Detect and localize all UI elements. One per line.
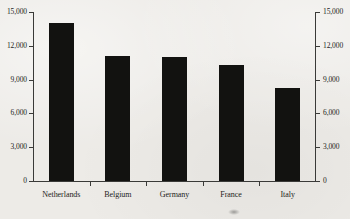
x-axis-tick bbox=[203, 182, 204, 186]
x-axis-label: France bbox=[220, 190, 241, 199]
y-axis-left-tick bbox=[29, 147, 33, 148]
y-axis-left-line bbox=[33, 12, 34, 182]
y-axis-left-tick bbox=[29, 113, 33, 114]
x-axis-line bbox=[33, 181, 316, 182]
scan-artifact bbox=[228, 209, 240, 215]
y-axis-left-tick-label: 12,000 bbox=[7, 42, 27, 50]
y-axis-left-tick-label: 3,000 bbox=[11, 143, 27, 151]
y-axis-left-tick-label: 0 bbox=[23, 177, 27, 185]
y-axis-right-tick-label: 9,000 bbox=[323, 76, 339, 84]
x-axis-label: Netherlands bbox=[42, 190, 80, 199]
y-axis-left-tick-label: 9,000 bbox=[11, 76, 27, 84]
y-axis-right-tick-label: 3,000 bbox=[323, 143, 339, 151]
bar bbox=[275, 88, 300, 181]
bar bbox=[162, 57, 187, 181]
y-axis-right-tick bbox=[316, 80, 320, 81]
x-axis-label: Germany bbox=[160, 190, 189, 199]
y-axis-right-tick-label: 12,000 bbox=[323, 42, 343, 50]
x-axis-tick bbox=[90, 182, 91, 186]
y-axis-right-tick bbox=[316, 12, 320, 13]
bar bbox=[105, 56, 130, 181]
bar-chart: 03,0006,0009,00012,00015,000 03,0006,000… bbox=[0, 0, 350, 219]
y-axis-left-tick bbox=[29, 80, 33, 81]
y-axis-right-tick bbox=[316, 46, 320, 47]
y-axis-right-tick bbox=[316, 147, 320, 148]
bar bbox=[49, 23, 74, 181]
y-axis-left-tick bbox=[29, 46, 33, 47]
y-axis-right-tick bbox=[316, 181, 320, 182]
x-axis-tick bbox=[259, 182, 260, 186]
y-axis-right-tick-label: 6,000 bbox=[323, 109, 339, 117]
y-axis-left-tick bbox=[29, 181, 33, 182]
y-axis-right-tick-label: 0 bbox=[323, 177, 327, 185]
plot-area: 03,0006,0009,00012,00015,000 03,0006,000… bbox=[33, 12, 316, 181]
y-axis-left-tick bbox=[29, 12, 33, 13]
x-axis-label: Italy bbox=[280, 190, 294, 199]
y-axis-right-tick bbox=[316, 113, 320, 114]
x-axis-tick bbox=[146, 182, 147, 186]
bar bbox=[219, 65, 244, 181]
y-axis-right-tick-label: 15,000 bbox=[323, 8, 343, 16]
y-axis-left-tick-label: 6,000 bbox=[11, 109, 27, 117]
y-axis-right-line bbox=[315, 12, 316, 182]
x-axis-label: Belgium bbox=[104, 190, 131, 199]
y-axis-left-tick-label: 15,000 bbox=[7, 8, 27, 16]
